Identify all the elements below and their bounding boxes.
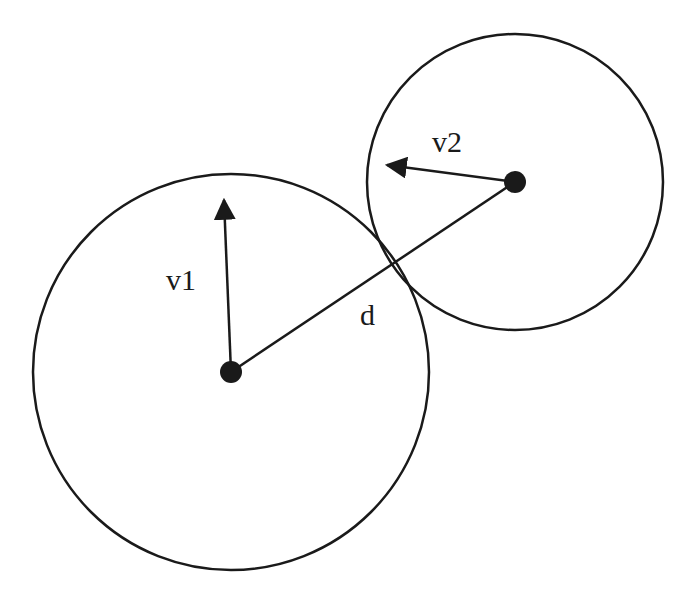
velocity-vector-v1: [224, 200, 231, 372]
label-v1: v1: [166, 263, 196, 296]
center-point-2: [504, 171, 526, 193]
two-circle-collision-diagram: v1 v2 d: [0, 0, 685, 595]
distance-line: [231, 182, 515, 372]
center-point-1: [220, 361, 242, 383]
label-v2: v2: [432, 125, 462, 158]
label-d: d: [360, 298, 375, 331]
velocity-vector-v2: [387, 165, 515, 182]
